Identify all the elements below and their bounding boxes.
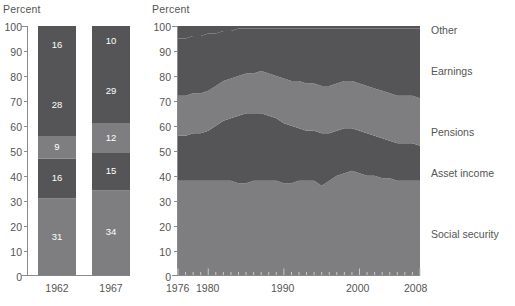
area-band-social-security	[178, 171, 420, 276]
right-area-chart-plot	[0, 0, 515, 306]
right-xtick-1976: 1976	[166, 282, 189, 294]
series-label-earnings: Earnings	[431, 65, 472, 77]
area-stack-groups	[178, 26, 420, 276]
right-xtick-1990: 1990	[271, 282, 294, 294]
series-label-social-security: Social security	[431, 228, 499, 240]
figure-container: Percent 100 90 80 70 60 50 40 30 20 10 0	[0, 0, 515, 306]
right-xtick-1980: 1980	[196, 282, 219, 294]
series-label-pensions: Pensions	[431, 126, 474, 138]
right-xtick-2000: 2000	[346, 282, 369, 294]
right-xtick-2008: 2008	[404, 282, 427, 294]
series-label-other: Other	[431, 24, 457, 36]
series-label-asset-income: Asset income	[431, 167, 494, 179]
